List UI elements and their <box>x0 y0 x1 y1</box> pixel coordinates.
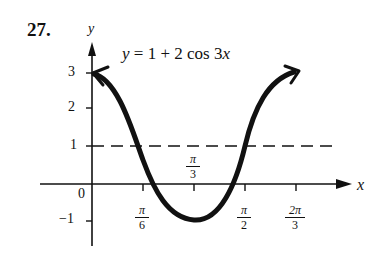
x-tick-pi-6: π6 <box>135 204 149 231</box>
problem-number: 27. <box>27 19 51 41</box>
y-tick-3: 3 <box>68 64 75 80</box>
x-tick-2pi-3: 2π3 <box>285 204 305 231</box>
y-axis-label: y <box>88 21 94 37</box>
y-tick-2: 2 <box>68 99 75 115</box>
equation-lhs: y <box>122 44 130 63</box>
y-tick-neg1: −1 <box>59 211 74 227</box>
x-tick-pi-3: π3 <box>186 153 200 180</box>
x-tick-pi-2: π2 <box>237 204 251 231</box>
x-axis-arrow-icon <box>336 179 352 189</box>
y-axis-arrow-icon <box>88 42 96 56</box>
equation-rhs: = 1 + 2 cos 3 <box>134 44 223 63</box>
y-ticks <box>86 73 92 221</box>
graph-canvas <box>0 0 378 263</box>
y-tick-1: 1 <box>70 137 77 153</box>
equation-var: x <box>222 44 230 63</box>
equation-label: y = 1 + 2 cos 3x <box>122 44 230 64</box>
x-axis-label: x <box>357 176 364 194</box>
y-tick-0: 0 <box>78 186 85 202</box>
x-ticks <box>143 184 296 191</box>
